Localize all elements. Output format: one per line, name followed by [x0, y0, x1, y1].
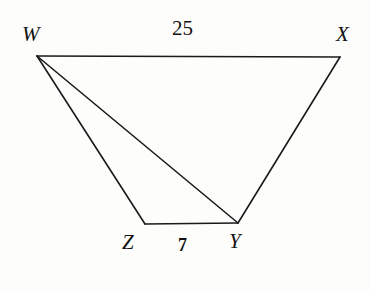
vertex-label-z: Z — [122, 232, 134, 253]
vertex-label-x: X — [336, 24, 349, 45]
vertex-label-w: W — [22, 24, 40, 45]
side-length-label-zy: 7 — [178, 236, 187, 254]
edge-zw-line — [37, 56, 145, 224]
geometry-figure: W X Y Z 25 7 — [0, 0, 370, 291]
diagonal-wy-line — [37, 56, 238, 223]
edge-wx-line — [37, 56, 340, 57]
side-length-label-wx: 25 — [172, 18, 193, 39]
vertex-label-y: Y — [229, 231, 241, 252]
edge-xy-line — [238, 57, 340, 223]
edge-yz-line — [145, 223, 238, 224]
